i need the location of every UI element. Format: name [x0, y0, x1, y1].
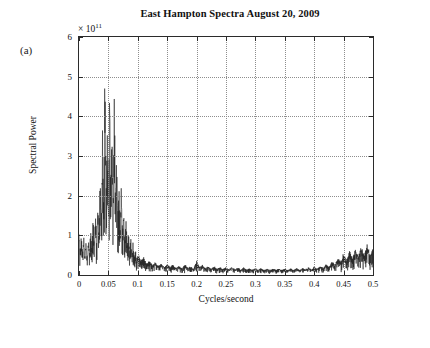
- y-tick-right: [369, 116, 373, 117]
- y-tick-label: 2: [54, 191, 72, 201]
- y-tick: [79, 196, 83, 197]
- y-tick-label: 1: [54, 230, 72, 240]
- exponent-mantissa: × 10: [78, 24, 95, 34]
- y-tick-right: [369, 235, 373, 236]
- y-tick-right: [369, 77, 373, 78]
- x-tick-top: [314, 37, 315, 41]
- x-tick-label: 0.15: [160, 279, 175, 289]
- gridline-horizontal: [79, 235, 373, 236]
- y-tick: [79, 77, 83, 78]
- x-tick: [285, 271, 286, 275]
- gridline-horizontal: [79, 156, 373, 157]
- x-tick: [167, 271, 168, 275]
- x-tick-label: 0.1: [132, 279, 143, 289]
- x-tick-label: 0.05: [101, 279, 116, 289]
- x-tick-label: 0: [77, 279, 81, 289]
- x-tick-top: [285, 37, 286, 41]
- x-tick-top: [255, 37, 256, 41]
- y-tick: [79, 275, 83, 276]
- x-tick: [226, 271, 227, 275]
- y-tick-label: 6: [54, 32, 72, 42]
- x-tick: [108, 271, 109, 275]
- x-tick: [373, 271, 374, 275]
- x-tick: [314, 271, 315, 275]
- panel-label: (a): [20, 44, 32, 56]
- x-tick-top: [344, 37, 345, 41]
- x-tick-top: [226, 37, 227, 41]
- x-tick-label: 0.3: [250, 279, 261, 289]
- y-tick-right: [369, 275, 373, 276]
- x-tick: [255, 271, 256, 275]
- x-tick-label: 0.45: [336, 279, 351, 289]
- gridline-horizontal: [79, 116, 373, 117]
- chart-title: East Hampton Spectra August 20, 2009: [95, 8, 365, 19]
- x-tick-label: 0.5: [368, 279, 379, 289]
- y-tick: [79, 37, 83, 38]
- x-tick-top: [108, 37, 109, 41]
- figure-container: (a) East Hampton Spectra August 20, 2009…: [0, 0, 430, 348]
- y-axis-title: Spectral Power: [28, 85, 38, 205]
- x-tick: [138, 271, 139, 275]
- x-tick-top: [197, 37, 198, 41]
- x-tick-label: 0.25: [219, 279, 234, 289]
- x-tick-label: 0.4: [309, 279, 320, 289]
- x-tick: [197, 271, 198, 275]
- x-tick: [344, 271, 345, 275]
- x-tick-top: [373, 37, 374, 41]
- y-tick: [79, 235, 83, 236]
- y-tick: [79, 156, 83, 157]
- y-axis-exponent-label: × 1011: [78, 22, 102, 34]
- y-tick-label: 0: [54, 270, 72, 280]
- y-tick-label: 3: [54, 151, 72, 161]
- gridline-horizontal: [79, 196, 373, 197]
- x-tick-label: 0.2: [191, 279, 202, 289]
- y-tick-right: [369, 196, 373, 197]
- plot-area: [78, 36, 374, 276]
- y-tick-right: [369, 37, 373, 38]
- gridline-horizontal: [79, 77, 373, 78]
- y-tick-right: [369, 156, 373, 157]
- x-tick-top: [167, 37, 168, 41]
- y-tick-label: 4: [54, 111, 72, 121]
- x-tick-label: 0.35: [277, 279, 292, 289]
- y-tick-label: 5: [54, 72, 72, 82]
- x-tick-top: [138, 37, 139, 41]
- x-axis-title: Cycles/second: [78, 294, 374, 304]
- exponent-power: 11: [95, 22, 102, 30]
- y-tick: [79, 116, 83, 117]
